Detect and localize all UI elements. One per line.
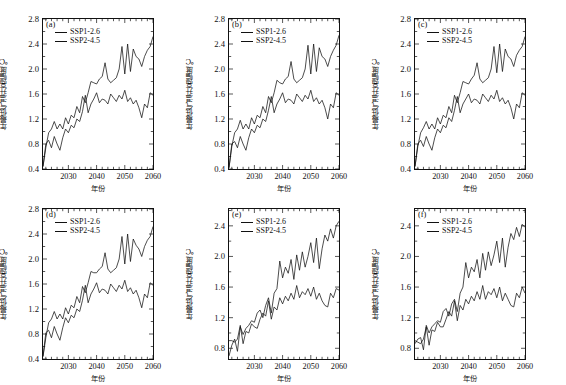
x-tick-label-f-3: 2060 [508, 362, 542, 371]
y-tick-label-f-3: 2.0 [385, 251, 411, 261]
subplot-f: (f)SSP1-2.6SSP2-4.50.81.21.62.02.4203020… [0, 0, 566, 385]
legend-item-f-2[interactable]: SSP2-4.5 [427, 227, 472, 236]
y-axis-label-f: 年最低气温升高幅度/℃ [372, 208, 379, 360]
legend-line-swatch-icon [427, 222, 439, 223]
y-tick-label-f-0: 0.8 [385, 343, 411, 353]
figure-root: (a)SSP1-2.6SSP2-4.50.40.81.21.62.02.42.8… [0, 0, 566, 385]
y-tick-label-f-2: 1.6 [385, 282, 411, 292]
legend-line-swatch-icon [427, 231, 439, 232]
legend-f: SSP1-2.6SSP2-4.5 [427, 218, 472, 236]
x-axis-label-f: 年份 [414, 372, 526, 383]
y-tick-label-f-4: 2.4 [385, 221, 411, 231]
series-line-f-1 [415, 286, 525, 346]
legend-label: SSP2-4.5 [442, 226, 472, 236]
y-tick-label-f-1: 1.2 [385, 313, 411, 323]
panel-tag-f: (f) [418, 210, 426, 219]
